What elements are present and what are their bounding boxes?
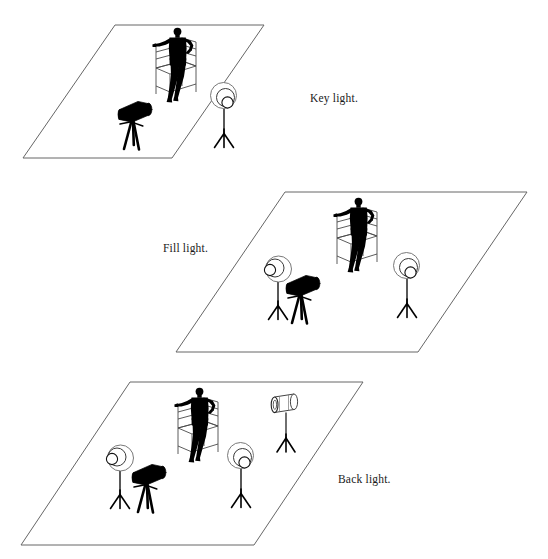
panel-back-light: Back light. (21, 382, 391, 545)
panel-label-fill-light: Fill light. (163, 242, 208, 255)
lighting-setup-diagram: Key light. Fill light. (0, 0, 548, 559)
panel-fill-light: Fill light. (163, 192, 527, 352)
panel-label-back-light: Back light. (338, 473, 391, 486)
panel-key-light: Key light. (23, 25, 358, 158)
umbrella-light-key (211, 83, 237, 148)
panel-label-key-light: Key light. (310, 92, 358, 105)
